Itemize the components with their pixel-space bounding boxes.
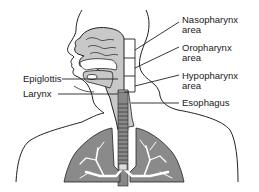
label-nasopharynx: Nasopharynx area [182,15,238,35]
label-esophagus: Esophagus [182,98,230,108]
label-epiglottis: Epiglottis [23,74,62,84]
label-oropharynx: Oropharynx area [182,43,232,63]
label-nasopharynx-line2: area [182,25,238,35]
label-oropharynx-line2: area [182,53,232,63]
oral-cavity [80,59,117,70]
label-hypopharynx: Hypopharynx area [182,71,238,91]
label-larynx: Larynx [23,89,52,99]
carina [119,164,127,170]
label-hypopharynx-line2: area [182,81,238,91]
